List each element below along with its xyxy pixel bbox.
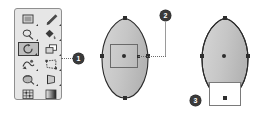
illustration-canvas: 1 2 (0, 0, 262, 120)
lasso-icon (22, 29, 35, 40)
anchor-point-bottom[interactable] (223, 96, 227, 100)
flyout-corner-icon (35, 53, 37, 55)
tool-free-distort[interactable] (41, 57, 62, 71)
anchor-point-left[interactable] (100, 54, 104, 58)
rotate-3d-icon (22, 74, 35, 85)
tool-gradient[interactable] (41, 87, 62, 101)
tools-grid (18, 12, 59, 101)
tool-lasso[interactable] (18, 27, 39, 41)
anchor-point-top[interactable] (123, 16, 127, 20)
flyout-corner-icon (59, 39, 61, 41)
anchor-point-top[interactable] (223, 16, 227, 20)
tools-palette[interactable] (14, 8, 62, 100)
flyout-corner-icon (59, 69, 61, 71)
flyout-corner-icon (36, 39, 38, 41)
anchor-point-left[interactable] (200, 54, 204, 58)
flyout-corner-icon (36, 24, 38, 26)
rectangle-fill-icon (22, 14, 35, 25)
transform-copy-icon (45, 44, 58, 55)
leader-line-callout-2-horizontal (138, 56, 166, 57)
gradient-swatch-icon (45, 89, 58, 100)
leader-line-callout-1 (61, 58, 73, 59)
flyout-corner-icon (36, 69, 38, 71)
tool-paint-bucket[interactable] (41, 27, 62, 41)
center-origin-point[interactable] (222, 54, 226, 58)
egg-shape-right[interactable] (196, 14, 254, 106)
tool-warp[interactable] (18, 57, 39, 71)
perspective-icon (45, 74, 58, 85)
rotate-tool-icon (22, 44, 35, 54)
egg-shape-center[interactable] (96, 14, 154, 106)
tool-rotate-3d[interactable] (18, 72, 39, 86)
paint-bucket-icon (45, 29, 58, 40)
flyout-corner-icon (59, 84, 61, 86)
anchor-point-right[interactable] (246, 54, 250, 58)
pencil-icon (45, 14, 58, 25)
callout-badge-1: 1 (73, 53, 84, 64)
tool-transform[interactable] (41, 42, 62, 56)
callout-badge-2: 2 (160, 10, 171, 21)
tool-perspective[interactable] (41, 72, 62, 86)
center-origin-point[interactable] (122, 54, 126, 58)
callout-badge-3: 3 (190, 95, 201, 106)
free-distort-icon (45, 59, 58, 70)
gradient-mesh-icon (22, 89, 35, 100)
flyout-corner-icon (36, 84, 38, 86)
warp-icon (22, 59, 35, 70)
leader-line-callout-2-vertical (165, 22, 166, 56)
bottom-selection-rectangle[interactable] (209, 82, 241, 106)
tool-rectangle[interactable] (18, 12, 39, 26)
anchor-point-bottom[interactable] (123, 96, 127, 100)
tool-rotate[interactable] (18, 42, 39, 56)
tool-pencil[interactable] (41, 12, 62, 26)
flyout-corner-icon (59, 54, 61, 56)
tool-gradient-mesh[interactable] (18, 87, 39, 101)
flyout-corner-icon (59, 24, 61, 26)
